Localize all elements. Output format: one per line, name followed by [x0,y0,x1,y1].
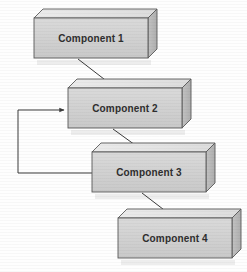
node-label: Component 4 [142,233,208,244]
box-side-face [206,143,215,192]
shadow-component-1 [37,60,151,65]
box-side-face [148,9,157,58]
node-component-2[interactable]: Component 2 [68,79,191,128]
node-component-3[interactable]: Component 3 [92,143,215,192]
box-side-face [182,79,191,128]
node-label: Component 1 [58,33,124,44]
shadow-component-2 [71,130,185,135]
diagram-canvas: Component 1 Component 2 Component 3 [0,0,247,272]
box-side-face [232,209,241,258]
node-component-1[interactable]: Component 1 [34,9,157,58]
component-diagram: Component 1 Component 2 Component 3 [0,0,247,272]
box-top-face [34,9,157,18]
node-label: Component 2 [92,103,158,114]
shadow-component-3 [95,194,209,199]
shadow-component-4 [121,260,235,265]
box-top-face [68,79,191,88]
node-label: Component 3 [116,167,182,178]
box-top-face [92,143,215,152]
node-component-4[interactable]: Component 4 [118,209,241,258]
box-top-face [118,209,241,218]
